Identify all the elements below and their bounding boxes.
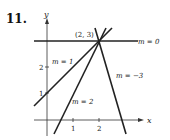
label-m1: m = 1 bbox=[52, 58, 73, 66]
slope-diagram: x y 1 2 1 2 (2, 3) m = 0 m = 1 m = 2 m =… bbox=[0, 0, 170, 140]
x-tick-1: 1 bbox=[71, 125, 75, 133]
y-tick-2: 2 bbox=[39, 64, 43, 72]
label-m2: m = 2 bbox=[72, 98, 94, 106]
point-label: (2, 3) bbox=[75, 31, 94, 39]
line-m2 bbox=[54, 28, 106, 134]
x-tick-2: 2 bbox=[97, 125, 101, 133]
label-m0: m = 0 bbox=[138, 38, 160, 46]
label-m-neg3: m = −3 bbox=[116, 72, 144, 80]
x-axis-arrow-icon bbox=[138, 118, 144, 122]
line-m-neg3 bbox=[95, 28, 126, 134]
y-axis-label: y bbox=[43, 10, 49, 19]
x-axis-label: x bbox=[147, 116, 152, 125]
